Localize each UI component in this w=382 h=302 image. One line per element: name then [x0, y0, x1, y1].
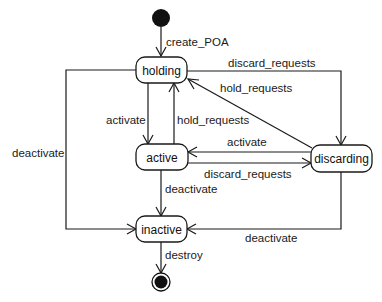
state-inactive-label: inactive: [141, 223, 182, 237]
label-deactivate-right: deactivate: [245, 232, 297, 244]
transition-discarding-to-active: activate: [188, 136, 311, 157]
transition-create-poa: create_POA: [156, 27, 229, 56]
transition-holding-to-discarding: discard_requests: [187, 57, 346, 145]
transition-active-to-discarding: discard_requests: [188, 158, 311, 180]
initial-state: [152, 9, 170, 27]
label-create-poa: create_POA: [166, 36, 229, 48]
label-destroy: destroy: [165, 249, 203, 261]
transition-destroy: destroy: [156, 242, 203, 273]
state-holding-label: holding: [142, 64, 181, 78]
transition-holding-to-active: activate: [106, 83, 153, 144]
transition-holding-to-inactive: deactivate: [12, 70, 136, 234]
state-diagram: create_POA discard_requests hold_request…: [0, 0, 382, 302]
final-state: [152, 273, 170, 291]
state-active: active: [136, 144, 188, 170]
label-deactivate-left: deactivate: [12, 147, 64, 159]
state-holding: holding: [136, 57, 187, 83]
label-deactivate-center: deactivate: [165, 183, 217, 195]
state-discarding-label: discarding: [314, 152, 369, 166]
label-discard-requests-top: discard_requests: [228, 57, 316, 69]
state-discarding: discarding: [311, 145, 372, 172]
state-inactive: inactive: [136, 216, 187, 242]
label-activate-left: activate: [106, 114, 146, 126]
label-activate-right: activate: [227, 136, 267, 148]
label-hold-requests-diagonal: hold_requests: [220, 82, 292, 94]
state-active-label: active: [146, 151, 178, 165]
label-hold-requests-vertical: hold_requests: [177, 114, 249, 126]
label-discard-requests-bottom: discard_requests: [204, 168, 292, 180]
